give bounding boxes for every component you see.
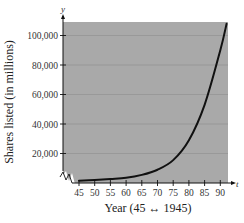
y-tick-label: 80,000	[32, 61, 58, 71]
x-tick-label: 65	[137, 188, 147, 198]
x-tick-label: 90	[216, 188, 226, 198]
x-tick-label: 75	[168, 188, 178, 198]
x-tick-label: 50	[90, 188, 100, 198]
y-axis-title: Shares listed (in millions)	[2, 40, 16, 164]
y-tick-label: 20,000	[32, 149, 58, 159]
y-axis-ticks: 20,00040,00060,00080,000100,000	[27, 31, 66, 159]
x-tick-label: 70	[153, 188, 163, 198]
y-axis-letter: y	[60, 4, 65, 14]
x-tick-label: 85	[200, 188, 210, 198]
x-tick-label: 60	[121, 188, 131, 198]
x-tick-label: 55	[106, 188, 116, 198]
y-tick-label: 100,000	[27, 31, 58, 41]
y-tick-label: 40,000	[32, 120, 58, 130]
chart: 45505560657075808590 20,00040,00060,0008…	[0, 0, 244, 223]
x-tick-label: 80	[184, 188, 194, 198]
plot-area	[63, 22, 228, 184]
x-tick-label: 45	[74, 188, 84, 198]
y-tick-label: 60,000	[32, 90, 58, 100]
x-axis-title: Year (45 ↔ 1945)	[104, 201, 191, 215]
x-axis-letter: t	[236, 179, 239, 189]
